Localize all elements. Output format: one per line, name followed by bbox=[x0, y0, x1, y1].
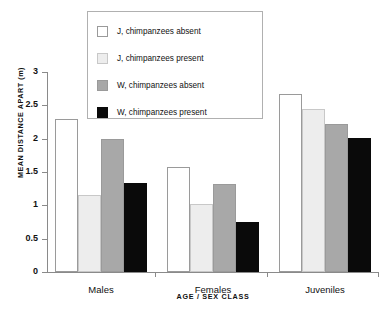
legend-swatch-icon bbox=[97, 26, 108, 37]
y-tick-label: 2 bbox=[33, 133, 38, 143]
legend-swatch-icon bbox=[97, 53, 108, 64]
y-tick-label: 3 bbox=[33, 66, 38, 76]
bar bbox=[124, 183, 147, 272]
y-axis-title: MEAN DISTANCE APART (m) bbox=[16, 43, 25, 203]
legend-item: W, chimpanzees absent bbox=[97, 79, 204, 91]
legend-item: J, chimpanzees present bbox=[97, 52, 203, 64]
legend-swatch-icon bbox=[97, 107, 108, 118]
bar bbox=[325, 124, 348, 272]
y-tick-label: 0 bbox=[33, 266, 38, 276]
y-axis-line bbox=[47, 72, 48, 272]
bar bbox=[190, 204, 213, 272]
bar bbox=[78, 195, 101, 272]
x-tick bbox=[267, 272, 268, 277]
y-tick: 3 bbox=[42, 72, 47, 73]
legend-label: J, chimpanzees present bbox=[117, 54, 203, 63]
y-tick-label: 1 bbox=[33, 199, 38, 209]
y-tick: 2.5 bbox=[42, 105, 47, 106]
legend-swatch-icon bbox=[97, 80, 108, 91]
bar bbox=[213, 184, 236, 272]
bar bbox=[279, 94, 302, 272]
bar bbox=[55, 119, 78, 272]
y-tick: 0 bbox=[42, 272, 47, 273]
legend-label: W, chimpanzees absent bbox=[117, 81, 204, 90]
legend-label: W, chimpanzees present bbox=[117, 108, 207, 117]
bar bbox=[302, 109, 325, 272]
x-axis-line bbox=[47, 272, 379, 273]
legend-item: J, chimpanzees absent bbox=[97, 25, 201, 37]
x-tick bbox=[155, 272, 156, 277]
x-tick bbox=[378, 272, 379, 277]
bar bbox=[167, 167, 190, 272]
legend-item: W, chimpanzees present bbox=[97, 106, 207, 118]
y-tick-label: 0.5 bbox=[25, 233, 38, 243]
y-tick-label: 2.5 bbox=[25, 99, 38, 109]
bar bbox=[236, 222, 259, 272]
bar-chart: MEAN DISTANCE APART (m) 00.511.522.53 Ma… bbox=[0, 0, 386, 311]
y-tick: 1.5 bbox=[42, 172, 47, 173]
y-tick: 1 bbox=[42, 205, 47, 206]
y-tick: 0.5 bbox=[42, 239, 47, 240]
legend-label: J, chimpanzees absent bbox=[117, 27, 201, 36]
bar bbox=[101, 139, 124, 272]
y-tick-label: 1.5 bbox=[25, 166, 38, 176]
chart-legend: J, chimpanzees absentJ, chimpanzees pres… bbox=[87, 11, 263, 119]
x-axis-title: AGE / SEX CLASS bbox=[47, 292, 379, 301]
y-tick: 2 bbox=[42, 139, 47, 140]
bar bbox=[348, 138, 371, 272]
